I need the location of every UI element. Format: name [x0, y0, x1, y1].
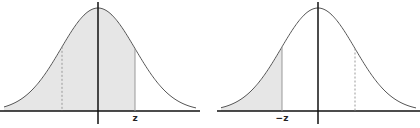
shaded-area — [4, 8, 135, 111]
z-label: z — [132, 113, 137, 123]
z-label: −z — [276, 113, 289, 123]
shaded-area — [221, 47, 282, 111]
right-normal-curve-diagram: −z — [217, 2, 420, 124]
left-normal-curve-diagram: z — [0, 2, 200, 124]
normal-distribution-diagrams: z −z — [0, 0, 420, 128]
